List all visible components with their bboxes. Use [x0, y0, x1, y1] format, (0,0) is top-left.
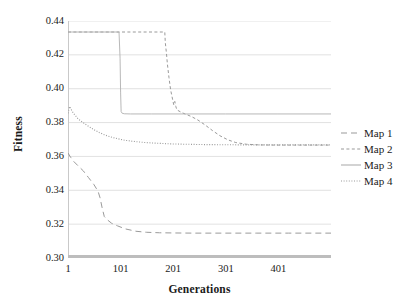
- x-tick-label: 301: [206, 263, 246, 274]
- legend-item-label: Map 1: [364, 128, 392, 139]
- x-tick-label: 1: [48, 263, 88, 274]
- legend-item-label: Map 3: [364, 160, 392, 171]
- legend-item-map-4[interactable]: Map 4: [341, 173, 409, 189]
- fitness-convergence-chart: Fitness 0.300.320.340.360.380.400.420.44…: [0, 0, 410, 306]
- legend-line-swatch-icon: [341, 176, 361, 186]
- legend-line-swatch-icon: [341, 160, 361, 170]
- series-line-map-1: [68, 153, 331, 233]
- legend-item-map-1[interactable]: Map 1: [341, 125, 409, 141]
- x-tick-label: 401: [258, 263, 298, 274]
- legend-item-label: Map 4: [364, 176, 392, 187]
- chart-legend: Map 1Map 2Map 3Map 4: [341, 125, 409, 189]
- plot-canvas: [68, 21, 331, 258]
- legend-item-map-3[interactable]: Map 3: [341, 157, 409, 173]
- plot-area: [68, 21, 331, 258]
- x-axis-title: Generations: [68, 283, 331, 295]
- x-tick-label: 201: [153, 263, 193, 274]
- legend-line-swatch-icon: [341, 144, 361, 154]
- legend-item-label: Map 2: [364, 144, 392, 155]
- legend-line-swatch-icon: [341, 128, 361, 138]
- x-tick-label: 101: [101, 263, 141, 274]
- series-line-map-4: [68, 106, 331, 144]
- series-line-map-3: [68, 32, 331, 114]
- legend-item-map-2[interactable]: Map 2: [341, 141, 409, 157]
